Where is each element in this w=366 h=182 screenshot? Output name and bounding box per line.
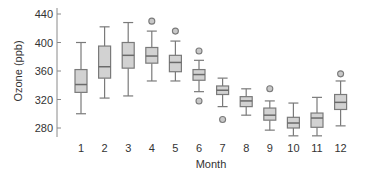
outlier-point	[338, 71, 344, 77]
iqr-box	[169, 55, 181, 71]
box-month-11	[311, 97, 323, 135]
outlier-point	[267, 86, 273, 92]
box-month-3	[122, 23, 134, 96]
y-tick-label: 360	[35, 65, 53, 77]
x-tick-labels: 123456789101112	[78, 142, 347, 154]
x-tick-label: 8	[243, 142, 249, 154]
box-month-10	[287, 103, 299, 136]
iqr-box	[75, 70, 87, 93]
y-tick-label: 320	[35, 94, 53, 106]
y-axis: 280320360400440 Ozone (ppb)	[12, 8, 61, 137]
y-axis-title: Ozone (ppb)	[12, 40, 24, 101]
box-month-8	[240, 89, 252, 115]
x-tick-label: 5	[172, 142, 178, 154]
box-month-9	[264, 86, 276, 130]
x-tick-label: 10	[287, 142, 299, 154]
x-axis-title: Month	[196, 158, 227, 170]
x-tick-label: 2	[102, 142, 108, 154]
iqr-box	[264, 108, 276, 120]
outlier-point	[220, 116, 226, 122]
x-tick-label: 12	[334, 142, 346, 154]
ozone-boxplot-chart: 280320360400440 Ozone (ppb) 123456789101…	[0, 0, 366, 182]
x-tick-label: 3	[125, 142, 131, 154]
x-tick-label: 1	[78, 142, 84, 154]
outlier-point	[172, 28, 178, 34]
x-tick-label: 7	[220, 142, 226, 154]
iqr-box	[311, 113, 323, 127]
outlier-point	[196, 98, 202, 104]
x-tick-label: 11	[311, 142, 322, 154]
x-tick-label: 6	[196, 142, 202, 154]
box-month-2	[99, 27, 111, 98]
box-month-6	[193, 48, 205, 104]
x-tick-label: 4	[149, 142, 155, 154]
y-tick-label: 280	[35, 122, 53, 134]
outlier-point	[149, 18, 155, 24]
x-tick-label: 9	[267, 142, 273, 154]
box-month-1	[75, 43, 87, 114]
box-month-5	[169, 28, 181, 81]
box-month-7	[217, 78, 229, 122]
y-tick-label: 400	[35, 37, 53, 49]
outlier-point	[196, 48, 202, 54]
x-axis: 123456789101112 Month	[78, 142, 347, 170]
box-month-4	[146, 18, 158, 81]
iqr-box	[99, 46, 111, 78]
box-month-12	[335, 71, 347, 126]
box-series	[75, 18, 347, 136]
y-tick-label: 440	[35, 8, 53, 20]
